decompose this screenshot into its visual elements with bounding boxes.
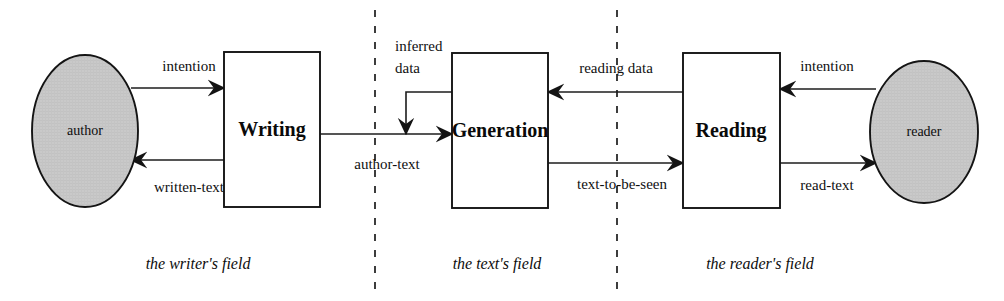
process-reading[interactable]: Reading	[683, 53, 780, 208]
edge-label-reading-data: reading data	[579, 60, 653, 76]
process-generation[interactable]: Generation	[452, 53, 549, 208]
field-label-writers-field: the writer's field	[146, 255, 252, 273]
reader-label: reader	[907, 124, 942, 139]
process-writing[interactable]: Writing	[224, 52, 320, 207]
inferred-data-arrow	[406, 92, 452, 134]
generation-label: Generation	[452, 119, 549, 141]
actor-reader[interactable]: reader	[870, 61, 978, 203]
edge-inferred-data	[406, 92, 452, 134]
field-label-texts-field: the text's field	[453, 255, 543, 273]
edge-label-text-to-be-seen: text-to-be-seen	[577, 176, 667, 192]
author-label: author	[67, 123, 103, 138]
edge-label-intention-right: intention	[800, 58, 854, 74]
edge-label-written-text: written-text	[154, 179, 225, 195]
edge-label-inferred-data-line2: data	[395, 60, 420, 76]
actor-author[interactable]: author	[32, 55, 138, 207]
edge-label-intention-left: intention	[162, 58, 216, 74]
edge-label-read-text: read-text	[800, 177, 854, 193]
communication-model-diagram: author reader Writing Generation Reading…	[0, 0, 1004, 301]
diagram-canvas: author reader Writing Generation Reading…	[0, 0, 1004, 301]
edge-label-inferred-data-line1: inferred	[395, 38, 443, 54]
field-label-readers-field: the reader's field	[706, 255, 815, 273]
reading-label: Reading	[695, 119, 766, 142]
writing-label: Writing	[238, 118, 305, 141]
edge-label-author-text: author-text	[354, 156, 420, 172]
